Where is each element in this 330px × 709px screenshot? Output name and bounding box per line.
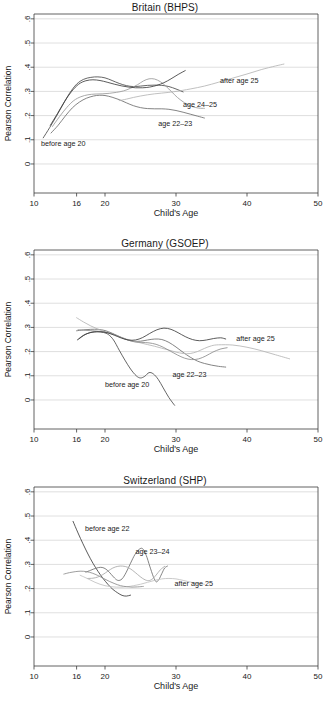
x-tick-label: 40 [243, 435, 252, 444]
y-tick-label: .1 [23, 372, 32, 379]
y-tick-label: 0 [23, 398, 32, 403]
y-tick-label: 0 [23, 161, 32, 166]
series-annotation: age 24–25 [183, 100, 217, 109]
y-tick-label: .2 [23, 112, 32, 119]
y-tick-label: .6 [23, 15, 32, 22]
y-tick-label: .5 [23, 512, 32, 519]
series-annotation: age 23–24 [136, 546, 170, 555]
y-tick-label: .1 [23, 136, 32, 143]
y-tick-label: .5 [23, 39, 32, 46]
y-tick-label: .3 [23, 88, 32, 95]
x-tick-label: 20 [101, 199, 110, 208]
series-annotation: before age 20 [41, 139, 85, 148]
y-tick-label: .3 [23, 324, 32, 331]
x-tick-label: 30 [172, 672, 181, 681]
plot-britain: .6.5.4.3.2.10101620304050Child's AgePear… [0, 0, 330, 236]
y-axis-title: Pearson Correlation [3, 302, 13, 378]
x-tick-label: 50 [314, 435, 323, 444]
x-tick-label: 50 [314, 672, 323, 681]
y-tick-label: .1 [23, 609, 32, 616]
x-axis-title: Child's Age [154, 208, 199, 218]
y-tick-label: .4 [23, 300, 32, 307]
y-tick-label: .6 [23, 251, 32, 258]
series-annotation: after age 25 [236, 335, 274, 344]
x-tick-label: 10 [30, 199, 39, 208]
series-annotation: after age 25 [175, 578, 213, 587]
x-tick-label: 16 [72, 672, 81, 681]
y-tick-label: 0 [23, 634, 32, 639]
x-tick-label: 20 [101, 672, 110, 681]
panel-germany: Germany (GSOEP) .6.5.4.3.2.1010162030405… [0, 236, 330, 472]
x-tick-label: 16 [72, 435, 81, 444]
x-tick-label: 10 [30, 672, 39, 681]
y-tick-label: .2 [23, 348, 32, 355]
series-curve [77, 332, 174, 406]
series-curve [50, 71, 185, 126]
series-annotation: age 22–23 [158, 119, 192, 128]
x-tick-label: 40 [243, 672, 252, 681]
y-tick-label: .3 [23, 560, 32, 567]
y-axis-title: Pearson Correlation [3, 65, 13, 141]
panel-britain: Britain (BHPS) .6.5.4.3.2.10101620304050… [0, 0, 330, 236]
series-curve [119, 64, 284, 101]
x-tick-label: 50 [314, 199, 323, 208]
series-annotation: before age 22 [85, 524, 129, 533]
plot-switzerland: .6.5.4.3.2.10101620304050Child's AgePear… [0, 473, 330, 709]
plot-frame [34, 14, 318, 193]
series-curve [77, 330, 226, 368]
x-axis-title: Child's Age [154, 681, 199, 691]
x-tick-label: 20 [101, 435, 110, 444]
x-tick-label: 10 [30, 435, 39, 444]
series-curve [43, 77, 183, 138]
y-tick-label: .2 [23, 584, 32, 591]
series-annotation: after age 25 [220, 76, 258, 85]
y-axis-title: Pearson Correlation [3, 538, 13, 614]
y-tick-label: .6 [23, 488, 32, 495]
plot-frame [34, 250, 318, 429]
figure-three-panel-correlation: Britain (BHPS) .6.5.4.3.2.10101620304050… [0, 0, 330, 709]
x-tick-label: 40 [243, 199, 252, 208]
x-axis-title: Child's Age [154, 444, 199, 454]
plot-germany: .6.5.4.3.2.10101620304050Child's AgePear… [0, 236, 330, 472]
x-tick-label: 16 [72, 199, 81, 208]
plot-frame [34, 487, 318, 666]
series-annotation: before age 20 [105, 380, 149, 389]
panel-switzerland: Switzerland (SHP) .6.5.4.3.2.10101620304… [0, 473, 330, 709]
x-tick-label: 30 [172, 199, 181, 208]
series-annotation: age 22–23 [172, 370, 206, 379]
x-tick-label: 30 [172, 435, 181, 444]
series-curve [78, 330, 227, 360]
y-tick-label: .5 [23, 275, 32, 282]
y-tick-label: .4 [23, 536, 32, 543]
y-tick-label: .4 [23, 63, 32, 70]
